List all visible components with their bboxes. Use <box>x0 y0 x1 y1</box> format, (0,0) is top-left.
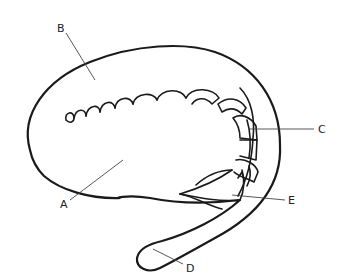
diagram-canvas: A B C D E <box>0 0 351 280</box>
leader-a <box>70 160 123 200</box>
label-d: D <box>186 262 194 275</box>
label-c: C <box>318 123 326 136</box>
leader-b <box>66 33 95 80</box>
leader-d <box>153 249 183 264</box>
label-e: E <box>288 194 295 207</box>
arch-row <box>66 90 219 122</box>
label-b: B <box>57 22 65 35</box>
outer-outline <box>28 46 280 270</box>
inner-outline <box>238 88 254 196</box>
label-a: A <box>60 198 68 211</box>
